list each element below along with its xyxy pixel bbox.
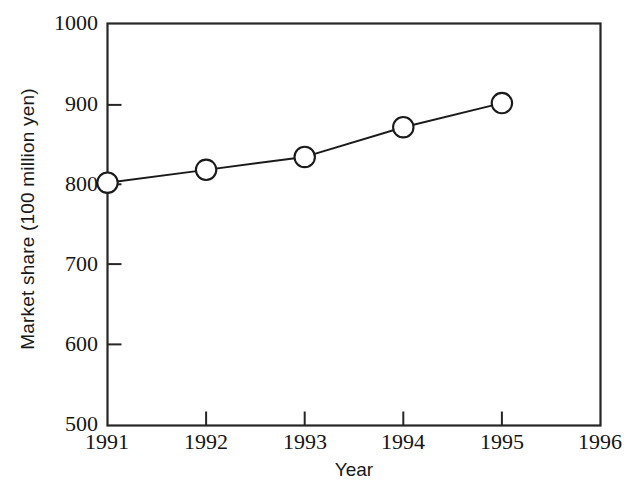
y-axis-ticks	[108, 105, 122, 345]
data-line-market-share	[108, 103, 502, 183]
chart-plot-area	[0, 0, 632, 498]
data-point-1994	[393, 117, 413, 137]
data-point-1993	[295, 147, 315, 167]
data-point-1995	[492, 93, 512, 113]
chart-figure: 1000 900 800 700 600 500 1991 1992 1993 …	[0, 0, 632, 498]
x-axis-title: Year	[107, 459, 601, 481]
plot-frame	[108, 24, 601, 426]
data-markers	[97, 93, 512, 193]
data-point-1992	[196, 160, 216, 180]
data-point-1991	[97, 172, 117, 192]
y-axis-title: Market share (100 million yen)	[17, 54, 39, 384]
x-axis-ticks	[206, 412, 502, 426]
